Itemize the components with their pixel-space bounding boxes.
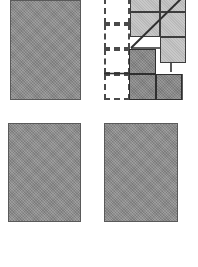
- dashed-cell-r1c1: [104, 0, 130, 24]
- bottom-left-rectangle: [8, 123, 81, 222]
- dark-tile-a: [129, 49, 156, 74]
- light-tile-e: [160, 37, 186, 63]
- light-tile-c: [130, 12, 160, 37]
- dark-tile-c: [156, 74, 182, 100]
- figure-canvas: [0, 0, 198, 267]
- dashed-cell-r3c1: [104, 49, 130, 74]
- light-tile-a: [130, 0, 160, 12]
- bottom-right-rectangle: [104, 123, 178, 222]
- light-tile-d: [160, 12, 186, 37]
- light-tile-b: [160, 0, 186, 12]
- dashed-cell-r4c1: [104, 74, 130, 100]
- dark-tile-b: [129, 74, 156, 100]
- top-right-composite: [0, 0, 198, 110]
- dashed-cell-r2c1: [104, 24, 130, 49]
